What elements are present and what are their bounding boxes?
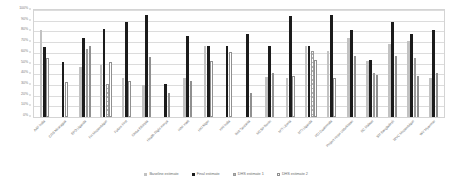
bar bbox=[407, 41, 410, 117]
legend-item[interactable]: Baseline estimate bbox=[144, 173, 178, 177]
bar bbox=[333, 78, 336, 117]
bar bbox=[89, 46, 92, 117]
bar bbox=[376, 75, 379, 117]
bar bbox=[145, 15, 148, 117]
x-label-slot: MTI Uganda bbox=[301, 119, 322, 171]
bar bbox=[100, 65, 103, 117]
bar bbox=[373, 73, 376, 117]
bar-chart: 100%90%80%70%60%50%40%30%20%10%0% AAF In… bbox=[0, 0, 452, 192]
chart-legend: Baseline estimateFinal estimateDHS estim… bbox=[0, 173, 452, 177]
x-label-slot: MCSP Benin bbox=[260, 119, 281, 171]
x-label-slot: Globa Ethiopia bbox=[137, 119, 158, 171]
bar bbox=[183, 78, 186, 117]
y-tick-label: 30% bbox=[21, 82, 28, 86]
bar-group bbox=[137, 10, 158, 117]
y-tick-label: 60% bbox=[21, 50, 28, 54]
bar bbox=[354, 56, 357, 117]
bar bbox=[103, 29, 106, 117]
bar bbox=[46, 58, 49, 117]
bar bbox=[308, 46, 311, 117]
y-tick-mark bbox=[29, 105, 31, 106]
legend-item[interactable]: DHS estimate 2 bbox=[277, 173, 308, 177]
bar-group bbox=[301, 10, 322, 117]
x-label-slot: EPD Uganda bbox=[75, 119, 96, 171]
y-tick-mark bbox=[29, 83, 31, 84]
bar-group bbox=[280, 10, 301, 117]
bar-group bbox=[96, 10, 117, 117]
bar bbox=[207, 46, 210, 117]
bar bbox=[65, 82, 68, 117]
bar bbox=[268, 46, 271, 117]
bar bbox=[210, 61, 213, 117]
bar-group bbox=[342, 10, 363, 117]
legend-swatch-icon bbox=[233, 173, 236, 176]
x-tick-label: Future First bbox=[114, 120, 129, 135]
bar-group bbox=[239, 10, 260, 117]
bar bbox=[82, 38, 85, 117]
bar bbox=[369, 60, 372, 117]
x-tick-label: MTI Liberia bbox=[278, 120, 292, 134]
x-label-slot: WVC Mozambique bbox=[403, 119, 424, 171]
x-label-slot: Future First bbox=[116, 119, 137, 171]
x-label-slot: FH Mozambique bbox=[96, 119, 117, 171]
bar-group bbox=[75, 10, 96, 117]
bar bbox=[289, 16, 292, 117]
bar bbox=[272, 73, 275, 117]
x-label-slot: AAF India bbox=[34, 119, 55, 171]
bar bbox=[286, 78, 289, 117]
y-tick-label: 70% bbox=[21, 39, 28, 43]
bar bbox=[246, 34, 249, 117]
legend-label: Baseline estimate bbox=[149, 173, 178, 177]
y-tick-label: 100% bbox=[19, 7, 28, 11]
bar bbox=[311, 51, 314, 117]
y-tick-mark bbox=[29, 30, 31, 31]
bar bbox=[43, 47, 46, 117]
x-tick-label: MTI Uganda bbox=[298, 120, 314, 136]
x-label-slot: Project Hope Uzbekistan bbox=[342, 119, 363, 171]
bar-group bbox=[260, 10, 281, 117]
y-tick-label: 20% bbox=[21, 93, 28, 97]
y-tick-label: 10% bbox=[21, 104, 28, 108]
legend-label: DHS estimate 2 bbox=[282, 173, 308, 177]
bars-layer bbox=[34, 10, 444, 117]
bar bbox=[190, 81, 193, 117]
bar bbox=[109, 62, 112, 117]
x-tick-label: AAF India bbox=[34, 120, 47, 133]
bar bbox=[292, 76, 295, 117]
y-tick-mark bbox=[29, 19, 31, 20]
legend-swatch-icon bbox=[192, 173, 195, 176]
bar-group bbox=[424, 10, 445, 117]
x-axis: AAF IndiaCRS NicaraguaEPD UgandaFH Mozam… bbox=[34, 119, 444, 171]
y-tick-mark bbox=[29, 73, 31, 74]
y-tick-label: 40% bbox=[21, 71, 28, 75]
x-label-slot: WV Myanmar bbox=[424, 119, 445, 171]
bar bbox=[62, 62, 65, 117]
bar-group bbox=[403, 10, 424, 117]
x-label-slot: HAF Haiti bbox=[178, 119, 199, 171]
bar bbox=[149, 57, 152, 117]
x-label-slot: IMA Tanzania bbox=[239, 119, 260, 171]
y-tick-mark bbox=[29, 94, 31, 95]
bar bbox=[429, 78, 432, 117]
bar bbox=[125, 22, 128, 117]
legend-item[interactable]: Final estimate bbox=[192, 173, 220, 177]
y-tick-mark bbox=[29, 41, 31, 42]
x-label-slot: Health Right Kenya bbox=[157, 119, 178, 171]
bar bbox=[366, 61, 369, 117]
bar-group bbox=[55, 10, 76, 117]
bar bbox=[204, 46, 207, 117]
bar bbox=[128, 81, 131, 117]
bar bbox=[314, 60, 317, 117]
x-tick-label: HAF Haiti bbox=[178, 120, 191, 133]
bar bbox=[168, 93, 171, 117]
bar bbox=[229, 52, 232, 117]
bar bbox=[388, 44, 391, 117]
bar-group bbox=[198, 10, 219, 117]
x-tick-label: HKI Niger bbox=[198, 120, 211, 133]
x-label-slot: SM Bangladesh bbox=[383, 119, 404, 171]
legend-swatch-icon bbox=[277, 173, 280, 176]
bar-group bbox=[34, 10, 55, 117]
bar bbox=[432, 30, 435, 117]
legend-item[interactable]: DHS estimate 1 bbox=[233, 173, 264, 177]
bar bbox=[395, 56, 398, 117]
